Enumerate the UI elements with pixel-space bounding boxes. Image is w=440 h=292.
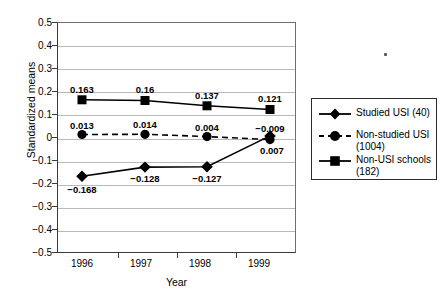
y-tick-mark--0.1 — [52, 160, 57, 161]
x-tick-label-1999: 1999 — [236, 258, 282, 269]
y-tick-label-0.2: 0.2 — [18, 87, 52, 97]
value-label-non-studied-1998: 0.004 — [186, 122, 228, 133]
value-label-non-usi-1997: 0.16 — [125, 84, 165, 95]
diamond-marker-icon — [318, 107, 352, 121]
y-tick-label--0.3: −0.3 — [18, 202, 52, 212]
value-label-studied-1996: −0.168 — [58, 184, 106, 195]
gridline-0 — [58, 139, 295, 140]
square-marker-icon — [318, 154, 352, 168]
y-tick-label-0: 0 — [18, 133, 52, 143]
y-tick-mark-0 — [52, 137, 57, 138]
y-tick-mark-0.4 — [52, 45, 57, 46]
y-tick-mark-0.3 — [52, 68, 57, 69]
y-tick-mark--0.5 — [52, 252, 57, 253]
chart-legend: Studied USI (40) Non-studied USI (1004) — [311, 98, 437, 180]
legend-label-non-studied-usi: Non-studied USI (1004) — [356, 129, 429, 152]
value-label-studied-1999: 0.007 — [250, 145, 294, 156]
gridline-0.3 — [58, 69, 295, 70]
y-tick-label-0.1: 0.1 — [18, 110, 52, 120]
value-label-non-usi-1998: 0.137 — [186, 90, 228, 101]
y-tick-label-0.5: 0.5 — [18, 18, 52, 28]
value-label-non-usi-1999: 0.121 — [249, 93, 291, 104]
y-tick-mark--0.2 — [52, 183, 57, 184]
y-tick-mark-0.2 — [52, 91, 57, 92]
gridline--0.4 — [58, 231, 295, 232]
y-tick-mark--0.3 — [52, 206, 57, 207]
value-label-non-studied-1999: −0.009 — [246, 123, 294, 134]
legend-item-studied-usi[interactable]: Studied USI (40) — [318, 107, 430, 121]
legend-item-non-studied-usi[interactable]: Non-studied USI (1004) — [318, 129, 429, 152]
legend-label-non-usi-schools: Non-USI schools (182) — [356, 154, 431, 177]
y-tick-mark--0.4 — [52, 229, 57, 230]
chart-title-clipped — [0, 0, 440, 7]
value-label-non-studied-1996: 0.013 — [60, 120, 104, 131]
legend-label-non-studied-usi-line2: (1004) — [356, 141, 385, 152]
y-tick-label--0.1: −0.1 — [18, 156, 52, 166]
plot-area — [57, 22, 296, 253]
value-label-non-studied-1997: 0.014 — [124, 119, 166, 130]
y-tick-mark-0.5 — [52, 22, 57, 23]
value-label-studied-1998: −0.127 — [183, 173, 231, 184]
gridline-0.1 — [58, 115, 295, 116]
value-label-studied-1997: −0.128 — [121, 173, 169, 184]
legend-label-non-usi-schools-line1: Non-USI schools — [356, 154, 431, 165]
y-tick-label--0.4: −0.4 — [18, 225, 52, 235]
value-label-non-usi-1996: 0.163 — [60, 84, 104, 95]
circle-marker-icon — [318, 129, 352, 143]
gridline--0.3 — [58, 208, 295, 209]
y-tick-label--0.2: −0.2 — [18, 179, 52, 189]
x-tick-label-1998: 1998 — [177, 258, 223, 269]
gridline--0.1 — [58, 162, 295, 163]
gridline-0.4 — [58, 46, 295, 47]
x-axis-title: Year — [57, 276, 296, 288]
y-tick-label--0.5: −0.5 — [18, 248, 52, 258]
legend-label-non-studied-usi-line1: Non-studied USI — [356, 129, 429, 140]
chart-figure: Standardized means 0.5 0.4 0.3 0.2 0.1 0… — [0, 0, 440, 292]
scan-artifact-dot — [384, 53, 387, 56]
y-tick-label-0.3: 0.3 — [18, 64, 52, 74]
x-tick-label-1996: 1996 — [59, 258, 105, 269]
legend-label-studied-usi: Studied USI (40) — [356, 107, 430, 119]
y-tick-label-0.4: 0.4 — [18, 41, 52, 51]
x-tick-label-1997: 1997 — [118, 258, 164, 269]
legend-item-non-usi-schools[interactable]: Non-USI schools (182) — [318, 154, 431, 177]
legend-label-non-usi-schools-line2: (182) — [356, 166, 379, 177]
y-tick-mark-0.1 — [52, 114, 57, 115]
